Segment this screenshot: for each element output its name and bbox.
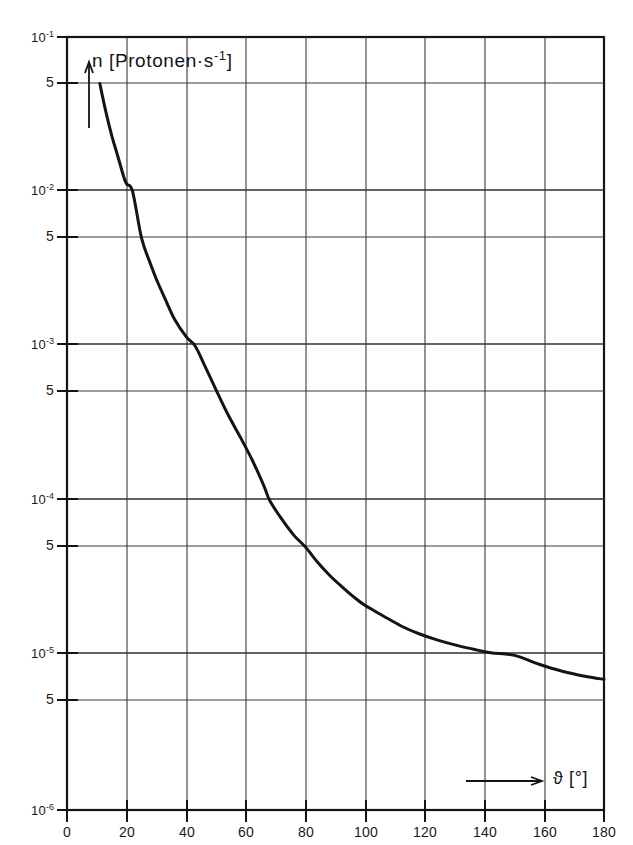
y-axis-label-bracket: ] [227,50,233,71]
y-tick-exponent-1e-2: -2 [46,182,54,192]
x-tick-label-20: 20 [104,824,150,840]
y-tick-exponent-1e-1: -1 [46,29,54,39]
x-tick-label-180: 180 [581,824,627,840]
y-tick-label-5e-6: 5 [8,691,54,707]
x-axis-label: ϑ [°] [553,768,588,789]
y-tick-label-5e-5: 5 [8,537,54,553]
y-tick-exponent-1e-4: -4 [46,491,54,501]
x-tick-label-160: 160 [522,824,568,840]
y-axis-label: n [Protonen·s-1] [92,48,233,72]
x-tick-label-140: 140 [462,824,508,840]
y-tick-label-1e-5: 10-5 [8,645,54,661]
x-tick-label-100: 100 [343,824,389,840]
y-tick-label-1e-3: 10-3 [8,336,54,352]
y-tick-label-5e-2: 5 [8,74,54,90]
y-tick-exponent-1e-5: -5 [46,645,54,655]
chart-figure: 10-1 5 10-2 5 10-3 5 10-4 5 10-5 5 10-6 … [0,0,633,845]
plot-area [0,0,633,845]
x-tick-label-0: 0 [44,824,90,840]
x-tick-label-40: 40 [164,824,210,840]
y-tick-label-1e-1: 10-1 [8,29,54,45]
y-tick-label-5e-4: 5 [8,382,54,398]
y-tick-label-1e-4: 10-4 [8,491,54,507]
y-tick-label-5e-3: 5 [8,228,54,244]
y-tick-exponent-1e-3: -3 [46,336,54,346]
x-tick-label-60: 60 [223,824,269,840]
y-tick-exponent-1e-6: -6 [46,802,54,812]
y-tick-label-1e-2: 10-2 [8,182,54,198]
x-tick-label-120: 120 [402,824,448,840]
x-tick-label-80: 80 [283,824,329,840]
y-axis-label-base: n [Protonen·s [92,50,214,71]
y-axis-label-exponent: -1 [214,48,227,63]
plot-frame [67,37,604,810]
y-tick-label-1e-6: 10-6 [8,802,54,818]
